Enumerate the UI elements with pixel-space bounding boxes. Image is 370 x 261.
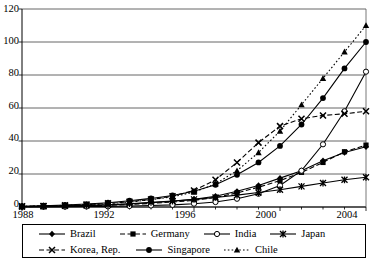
legend-label-brazil: Brazil [67,228,98,239]
chile-marker-icon [222,243,252,257]
legend-label-germany: Germany [148,228,192,239]
korea-marker-icon [37,243,67,257]
japan-marker-icon [268,227,298,241]
germany-marker-icon [118,227,148,241]
brazil-marker-icon [37,227,67,241]
legend-item-brazil[interactable]: Brazil [37,225,98,242]
legend-item-japan[interactable]: Japan [268,225,327,242]
series-line-india [22,72,366,207]
chart-legend: Brazil Germany India Japan Korea, Rep. [22,224,366,258]
legend-item-chile[interactable]: Chile [222,241,280,258]
legend-label-india: India [232,228,259,239]
legend-row-1: Brazil Germany India Japan [23,225,365,242]
plot-area [0,0,370,261]
legend-label-chile: Chile [252,244,280,255]
series-line-chile [22,26,366,207]
singapore-marker-icon [134,243,164,257]
legend-item-germany[interactable]: Germany [118,225,192,242]
legend-label-korea: Korea, Rep. [67,244,122,255]
legend-row-2: Korea, Rep. Singapore Chile [23,241,365,258]
legend-label-japan: Japan [298,228,327,239]
india-marker-icon [202,227,232,241]
legend-item-india[interactable]: India [202,225,259,242]
legend-item-korea[interactable]: Korea, Rep. [37,241,122,258]
series-line-singapore [22,42,366,206]
line-chart: 120 100 80 60 40 20 0 1988 1992 1996 200… [0,0,370,261]
legend-item-singapore[interactable]: Singapore [134,241,212,258]
legend-label-singapore: Singapore [164,244,212,255]
